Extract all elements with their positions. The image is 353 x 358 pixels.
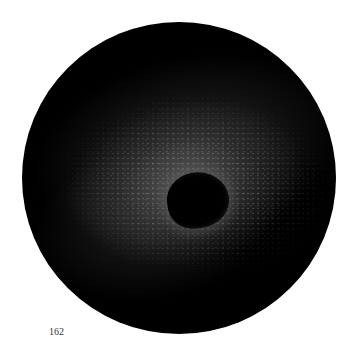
circular-photo <box>22 22 336 334</box>
page-number: 162 <box>49 326 64 337</box>
